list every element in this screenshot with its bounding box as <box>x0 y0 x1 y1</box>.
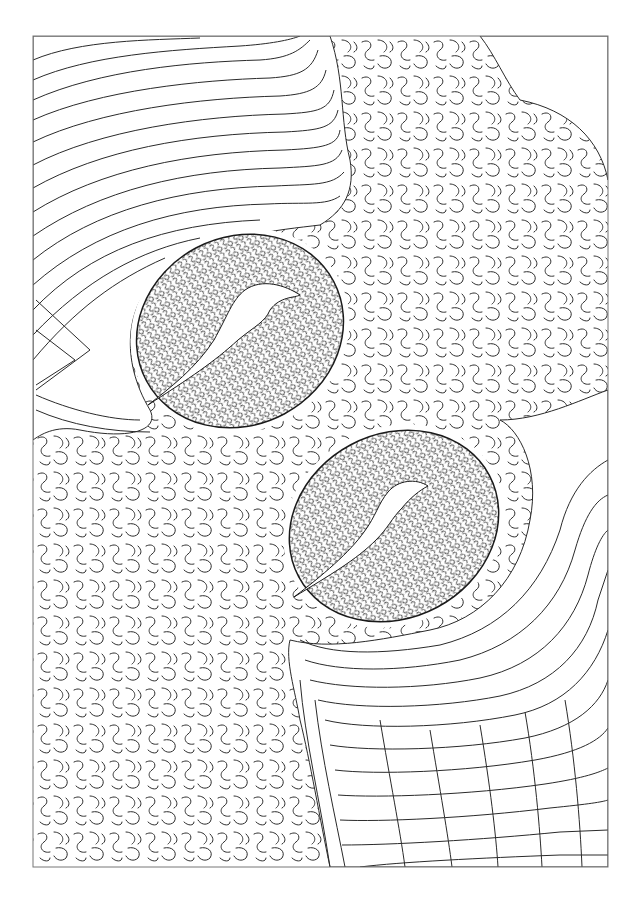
maze-artwork <box>0 0 643 900</box>
artwork-content <box>33 36 608 867</box>
